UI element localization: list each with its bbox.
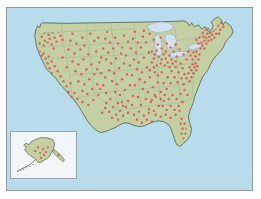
alaska-main-shape bbox=[24, 138, 55, 163]
map-figure bbox=[0, 0, 261, 199]
alaska-landmass bbox=[17, 138, 65, 172]
alaska-inset-box[interactable] bbox=[10, 131, 77, 179]
alaska-inset-svg[interactable] bbox=[11, 132, 76, 178]
aleutian-islands bbox=[17, 164, 34, 172]
alaska-peninsula bbox=[18, 160, 35, 171]
